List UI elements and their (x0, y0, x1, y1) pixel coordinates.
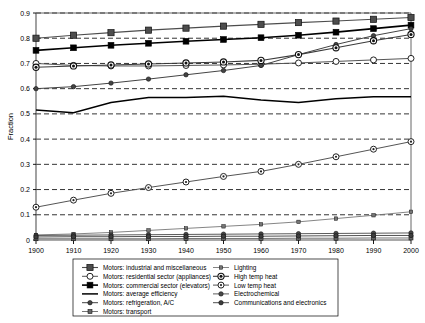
data-point-marker (108, 42, 114, 48)
y-tick-label: 0 (26, 237, 30, 244)
legend-item-label: Lighting (234, 264, 257, 272)
legend: Motors: industrial and miscellaneousMoto… (73, 259, 338, 316)
marker-center-dot (110, 63, 113, 66)
data-point-marker (258, 35, 264, 41)
data-point-marker (145, 27, 151, 33)
marker-center-dot (35, 206, 37, 208)
legend-item-label: Motors: industrial and miscellaneous (103, 264, 206, 271)
legend-item[interactable]: Electrochemical (213, 290, 279, 297)
x-tick-label: 1900 (28, 247, 44, 254)
data-point-marker (34, 235, 38, 239)
marker-center-dot (335, 156, 337, 158)
x-tick-label: 1940 (178, 247, 194, 254)
marker-center-dot (72, 64, 75, 67)
data-point-marker (296, 60, 302, 66)
data-point-marker (87, 273, 93, 279)
data-point-marker (146, 40, 152, 46)
data-point-marker (220, 23, 226, 29)
marker-center-dot (220, 284, 222, 286)
x-tick-label: 1950 (216, 247, 232, 254)
y-tick-label: 0.7 (20, 60, 30, 67)
data-point-marker (70, 32, 76, 38)
y-tick-label: 0.9 (20, 10, 30, 17)
marker-center-dot (410, 141, 412, 143)
data-point-marker (219, 266, 222, 269)
x-tick-label: 1960 (253, 247, 269, 254)
data-point-marker (408, 14, 414, 20)
data-point-marker (222, 225, 225, 228)
data-point-marker (221, 234, 225, 238)
data-point-marker (333, 18, 339, 24)
legend-item[interactable]: Motors: transport (82, 308, 152, 316)
data-point-marker (184, 73, 188, 77)
data-point-marker (71, 45, 77, 51)
data-point-marker (221, 68, 225, 72)
data-series (33, 139, 414, 211)
data-point-marker (371, 26, 377, 32)
marker-center-dot (410, 33, 413, 36)
data-point-marker (295, 19, 301, 25)
data-series-group (33, 14, 414, 240)
legend-item[interactable]: Motors: commercial sector (elevators) (82, 282, 210, 290)
data-point-marker (146, 234, 150, 238)
data-point-marker (183, 25, 189, 31)
legend-item-label: Electrochemical (234, 290, 279, 297)
y-tick-label: 0.3 (20, 161, 30, 168)
gridlines (36, 13, 411, 215)
data-point-marker (87, 264, 93, 270)
data-point-marker (408, 55, 414, 61)
data-point-marker (219, 292, 223, 296)
marker-center-dot (185, 61, 188, 64)
marker-center-dot (35, 66, 38, 69)
marker-center-dot (222, 60, 225, 63)
marker-center-dot (72, 199, 74, 201)
legend-item[interactable]: Motors: refrigeration, A/C (82, 299, 174, 307)
y-tick-label: 0.1 (20, 211, 30, 218)
y-axis-title: Fraction (6, 113, 15, 140)
marker-center-dot (297, 53, 300, 56)
data-point-marker (219, 301, 223, 305)
data-point-marker (372, 214, 375, 217)
data-point-marker (333, 58, 339, 64)
marker-center-dot (372, 148, 374, 150)
data-point-marker (409, 210, 412, 213)
series-line (36, 96, 411, 112)
marker-center-dot (260, 170, 262, 172)
data-point-marker (109, 235, 113, 239)
data-point-marker (88, 310, 92, 314)
data-point-marker (371, 57, 377, 63)
x-tick-label: 1980 (328, 247, 344, 254)
data-point-marker (221, 37, 227, 43)
legend-item-label: Motors: commercial sector (elevators) (103, 282, 210, 290)
y-tick-label: 0.8 (20, 35, 30, 42)
data-point-marker (108, 30, 114, 36)
data-point-marker (146, 77, 150, 81)
y-tick-label: 0.2 (20, 186, 30, 193)
marker-center-dot (372, 39, 375, 42)
energy-efficiency-line-chart: 00.10.20.30.40.50.60.70.80.9Fraction1900… (0, 0, 425, 323)
legend-item-label: Motors: average efficiency (103, 290, 178, 298)
data-point-marker (334, 234, 338, 238)
legend-item-label: Motors: refrigeration, A/C (103, 299, 174, 307)
legend-item[interactable]: High temp heat (213, 273, 278, 281)
legend-item-label: Low temp heat (234, 282, 276, 290)
x-axis-ticks: 1900191019201930194019501960197019801990… (28, 240, 419, 254)
legend-item[interactable]: Communications and electronics (213, 299, 326, 306)
data-point-marker (259, 234, 263, 238)
data-point-marker (88, 301, 92, 305)
data-point-marker (184, 234, 188, 238)
legend-item[interactable]: Motors: residential sector (appliances) (82, 273, 211, 281)
data-point-marker (33, 47, 39, 53)
legend-item-label: High temp heat (234, 273, 278, 281)
y-tick-label: 0.4 (20, 136, 30, 143)
legend-item[interactable]: Low temp heat (213, 282, 276, 290)
data-point-marker (334, 217, 337, 220)
legend-item[interactable]: Motors: industrial and miscellaneous (82, 264, 206, 271)
data-point-marker (184, 227, 187, 230)
legend-item[interactable]: Motors: average efficiency (82, 290, 178, 298)
marker-center-dot (147, 186, 149, 188)
marker-center-dot (222, 175, 224, 177)
x-tick-label: 1910 (66, 247, 82, 254)
legend-item[interactable]: Lighting (213, 264, 257, 272)
x-tick-label: 1920 (103, 247, 119, 254)
